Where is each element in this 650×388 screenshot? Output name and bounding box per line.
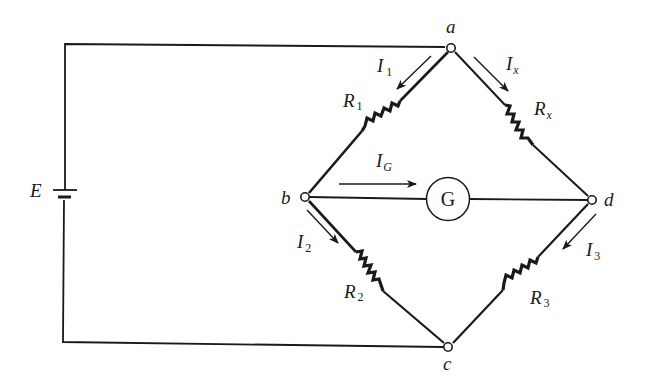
source-label: E bbox=[29, 180, 42, 201]
bottom-wire bbox=[63, 200, 443, 347]
resistor-label-r1: R1 bbox=[342, 90, 363, 113]
resistor-label-r2: R2 bbox=[343, 281, 364, 304]
node-c bbox=[444, 343, 452, 351]
arrow-i1-icon bbox=[397, 56, 431, 89]
resistor-r3-icon bbox=[503, 257, 538, 290]
node-d bbox=[588, 196, 596, 204]
node-label-a: a bbox=[446, 16, 456, 37]
outer-wire bbox=[63, 44, 445, 347]
node-label-c: c bbox=[443, 353, 452, 374]
current-label-i1: I1 bbox=[376, 55, 392, 79]
wheatstone-bridge-diagram: E G a b c d R1 Rx R2 bbox=[0, 0, 650, 388]
current-label-i3: I3 bbox=[585, 239, 600, 263]
node-label-b: b bbox=[281, 187, 291, 208]
resistor-r1-icon bbox=[362, 101, 400, 131]
resistor-r2-icon bbox=[356, 251, 383, 291]
resistor-label-r3: R3 bbox=[529, 287, 550, 310]
branch-a-d bbox=[455, 52, 588, 196]
node-label-d: d bbox=[604, 189, 614, 210]
battery-icon bbox=[53, 190, 77, 197]
galvanometer-label: G bbox=[441, 188, 455, 210]
branch-b-c bbox=[309, 201, 444, 343]
current-label-i2: I2 bbox=[296, 231, 311, 255]
resistor-label-rx: Rx bbox=[533, 98, 553, 122]
node-b bbox=[301, 193, 309, 201]
current-label-ig: IG bbox=[375, 150, 392, 174]
current-label-ix: Ix bbox=[505, 53, 519, 77]
arrow-ix-icon bbox=[474, 57, 508, 91]
resistor-rx-icon bbox=[505, 105, 533, 145]
node-a bbox=[447, 44, 455, 52]
branch-d-c bbox=[453, 204, 588, 343]
